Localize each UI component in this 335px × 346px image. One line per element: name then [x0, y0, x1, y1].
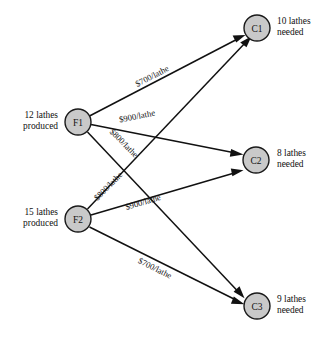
- annotation-c3-line1: 9 lathes: [277, 294, 335, 305]
- edge-f2-c3: [90, 227, 245, 304]
- node-f1[interactable]: F1: [65, 109, 91, 135]
- node-label-f1: F1: [73, 118, 83, 128]
- annotation-f2-line2: produced: [0, 218, 58, 229]
- node-label-c1: C1: [251, 24, 262, 34]
- annotation-c2-line1: 8 lathes: [277, 148, 335, 159]
- annotation-c2-demand: 8 lathes needed: [277, 148, 335, 171]
- annotation-f2-line1: 15 lathes: [0, 207, 58, 218]
- edge-f1-c1: [90, 35, 246, 116]
- edge-group: [88, 35, 252, 304]
- edge-label-f2-c2: $900/lathe: [124, 192, 162, 212]
- node-label-c2: C2: [250, 156, 261, 166]
- annotation-c2-line2: needed: [277, 159, 335, 170]
- annotation-f2-supply: 15 lathes produced: [0, 207, 58, 230]
- edge-line-f1-c1: [90, 39, 239, 117]
- annotation-f1-supply: 12 lathes produced: [0, 110, 58, 133]
- annotation-f1-line1: 12 lathes: [0, 110, 58, 121]
- edge-label-f1-c2: $900/lathe: [118, 107, 156, 124]
- annotation-f1-line2: produced: [0, 121, 58, 132]
- edge-label-f2-c1: $800/lathe: [92, 169, 125, 202]
- node-f2[interactable]: F2: [65, 206, 91, 232]
- node-c3[interactable]: C3: [244, 293, 270, 319]
- edge-line-f2-c3: [90, 227, 238, 301]
- node-label-f2: F2: [73, 215, 83, 225]
- node-c2[interactable]: C2: [243, 147, 269, 173]
- arrow-head-f1-c2: [230, 149, 244, 157]
- transportation-network-diagram: $700/lathe $900/lathe $800/lathe $800/la…: [0, 0, 335, 346]
- node-label-c3: C3: [251, 302, 262, 312]
- annotation-c3-line2: needed: [277, 305, 335, 316]
- node-c1[interactable]: C1: [244, 15, 270, 41]
- arrow-head-f2-c2: [231, 169, 244, 177]
- annotation-c3-demand: 9 lathes needed: [277, 294, 335, 317]
- annotation-c1-line2: needed: [277, 27, 335, 38]
- annotation-c1-line1: 10 lathes: [277, 16, 335, 27]
- annotation-c1-demand: 10 lathes needed: [277, 16, 335, 39]
